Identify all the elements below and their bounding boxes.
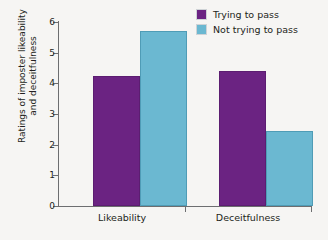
bar-likeability-trying-to-pass bbox=[93, 76, 140, 206]
y-axis-title: Ratings of imposter likeability and dece… bbox=[6, 0, 50, 156]
bar-deceitfulness-trying-to-pass bbox=[219, 71, 266, 206]
x-axis-label-likeability: Likeability bbox=[59, 212, 185, 223]
purple-swatch-icon bbox=[196, 9, 207, 20]
y-tick-label-1: 1 bbox=[49, 168, 55, 182]
y-tick-label-4: 4 bbox=[49, 76, 55, 90]
bar-deceitfulness-not-trying-to-pass bbox=[266, 131, 313, 206]
y-tick-label-3: 3 bbox=[49, 107, 55, 121]
bar-chart: Ratings of imposter likeability and dece… bbox=[0, 0, 328, 240]
blue-swatch-icon bbox=[196, 24, 207, 35]
bar-likeability-not-trying-to-pass bbox=[140, 31, 187, 206]
y-tick-label-6: 6 bbox=[49, 15, 55, 29]
x-tick-end bbox=[311, 206, 312, 212]
legend-item-trying-to-pass: Trying to pass bbox=[196, 9, 298, 20]
y-tick-label-0: 0 bbox=[49, 199, 55, 213]
y-tick-label-5: 5 bbox=[49, 46, 55, 60]
y-axis-title-line-2: and deceitfulness bbox=[28, 36, 39, 116]
legend-label-not-trying-to-pass: Not trying to pass bbox=[213, 24, 298, 35]
plot-area: 6 5 4 3 2 1 0 bbox=[59, 22, 312, 206]
y-axis-title-line-1: Ratings of imposter likeability bbox=[17, 9, 28, 143]
legend-item-not-trying-to-pass: Not trying to pass bbox=[196, 24, 298, 35]
legend: Trying to pass Not trying to pass bbox=[196, 9, 298, 35]
legend-label-trying-to-pass: Trying to pass bbox=[213, 9, 279, 20]
y-tick-label-2: 2 bbox=[49, 138, 55, 152]
x-axis-label-deceitfulness: Deceitfulness bbox=[185, 212, 311, 223]
